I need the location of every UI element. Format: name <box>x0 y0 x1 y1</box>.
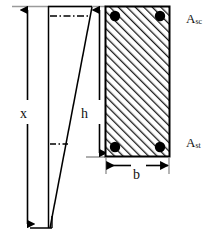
tension-steel-symbol: A <box>186 135 195 150</box>
beam-section-diagram <box>0 0 216 245</box>
dimension-label-x: x <box>20 107 27 121</box>
tension-steel-subscript: st <box>195 141 200 150</box>
rebar-top-right <box>155 11 165 21</box>
rebar-bottom-right <box>155 142 165 152</box>
dimension-label-b: b <box>133 168 140 182</box>
rebar-top-left <box>110 11 120 21</box>
concrete-section <box>106 7 170 157</box>
dimension-label-h: h <box>81 107 88 121</box>
rebar-bottom-left <box>110 142 120 152</box>
compression-steel-subscript: sc <box>195 17 202 26</box>
compression-steel-label: Asc <box>186 12 202 26</box>
compression-steel-symbol: A <box>186 11 195 26</box>
figure-container: x h b Asc Ast <box>0 0 216 245</box>
tension-steel-label: Ast <box>186 136 201 150</box>
